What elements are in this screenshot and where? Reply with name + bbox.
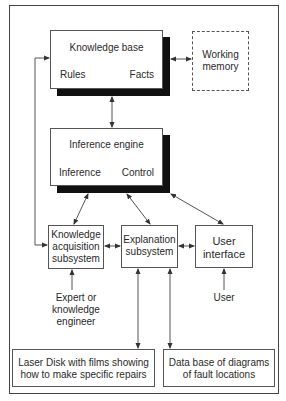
connector-lines [0, 0, 286, 401]
